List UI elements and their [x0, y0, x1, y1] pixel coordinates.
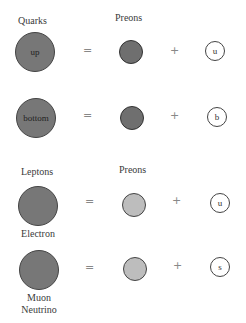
quark-preon-circle	[119, 40, 143, 64]
bottom-quark-circle: bottom	[16, 98, 56, 138]
electron-circle	[18, 186, 58, 226]
muon-label-line1: Muon	[9, 292, 69, 304]
muon-neutrino-label: Muon Neutrino	[9, 292, 69, 316]
equals-sign: =	[85, 195, 94, 208]
equals-sign: =	[85, 261, 94, 274]
flavor-preon-u: u	[205, 41, 225, 61]
quarks-preons-header: Preons	[115, 12, 142, 23]
quark-preon-circle	[120, 106, 144, 130]
bottom-quark-label: bottom	[23, 113, 49, 123]
flavor-label: u	[218, 198, 223, 208]
up-quark-label: up	[31, 47, 40, 57]
flavor-label: u	[213, 46, 218, 56]
up-quark-circle: up	[15, 32, 55, 72]
leptons-header: Leptons	[21, 166, 53, 177]
flavor-preon-b: b	[207, 107, 227, 127]
flavor-label: s	[218, 262, 222, 272]
plus-sign: +	[170, 44, 179, 57]
equals-sign: =	[83, 109, 92, 122]
flavor-preon-u: u	[210, 193, 230, 213]
plus-sign: +	[172, 194, 181, 207]
muon-label-line2: Neutrino	[9, 304, 69, 316]
muon-neutrino-circle	[19, 250, 59, 290]
flavor-preon-s: s	[210, 257, 230, 277]
plus-sign: +	[173, 259, 182, 272]
quarks-header: Quarks	[18, 15, 47, 26]
flavor-label: b	[215, 112, 220, 122]
leptons-preons-header: Preons	[119, 164, 146, 175]
lepton-preon-circle	[122, 193, 146, 217]
electron-label: Electron	[8, 228, 68, 240]
lepton-preon-circle	[123, 257, 147, 281]
plus-sign: +	[170, 109, 179, 122]
equals-sign: =	[83, 44, 92, 57]
